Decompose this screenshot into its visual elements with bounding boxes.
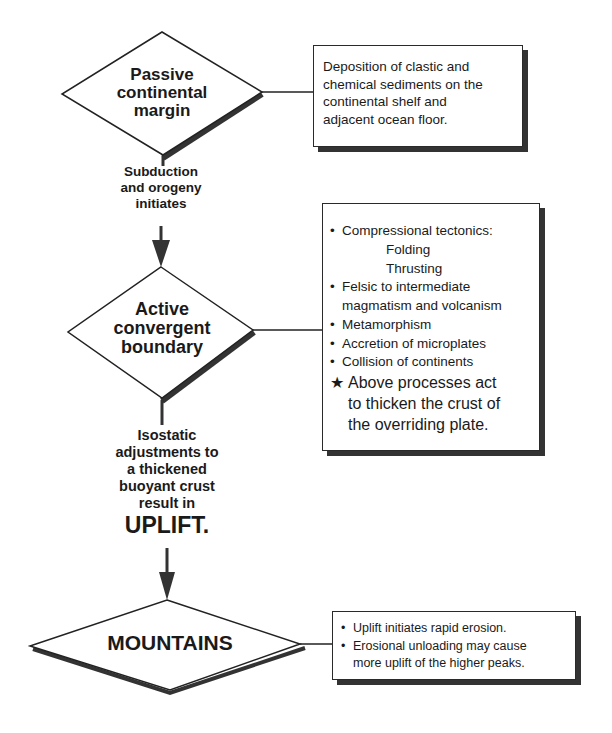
sub-item: Folding: [330, 241, 535, 260]
note-bullet-item: • Felsic to intermediate: [330, 278, 535, 297]
edge-label-line: and orogeny: [96, 180, 226, 196]
subduction-edge-label: Subduction and orogeny initiates: [96, 164, 226, 212]
edge-label-line: buoyant crust: [92, 478, 242, 495]
bullet-text: Metamorphism: [342, 317, 431, 332]
node-line: convergent: [92, 319, 232, 338]
bullet-continuation: more uplift of the higher peaks.: [341, 655, 571, 673]
note-line: Deposition of clastic and: [323, 58, 516, 76]
star-line: to thicken the crust of: [330, 394, 535, 415]
bullet-text: Uplift initiates rapid erosion.: [353, 621, 507, 635]
note-bullet-item: • Uplift initiates rapid erosion.: [341, 620, 571, 638]
note-bullet-item: • Metamorphism: [330, 316, 535, 335]
active-boundary-note: • Compressional tectonics: Folding Thrus…: [322, 203, 540, 451]
bullet-continuation: magmatism and volcanism: [330, 297, 535, 316]
passive-margin-note: Deposition of clastic and chemical sedim…: [313, 45, 523, 147]
bullet-icon: •: [330, 335, 335, 354]
star-icon: ★: [330, 373, 344, 394]
star-line: Above processes act: [348, 374, 497, 391]
mountains-note: • Uplift initiates rapid erosion. • Eros…: [332, 611, 576, 680]
bullet-icon: •: [341, 638, 345, 656]
note-line: continental shelf and: [323, 93, 516, 111]
bullet-text: Compressional tectonics:: [342, 223, 493, 238]
bullet-text: Accretion of microplates: [342, 336, 486, 351]
note-bullet-item: • Accretion of microplates: [330, 335, 535, 354]
passive-margin-label: Passive continental margin: [92, 66, 232, 120]
bullet-icon: •: [330, 222, 335, 241]
bullet-icon: •: [330, 316, 335, 335]
uplift-edge-label: Isostatic adjustments to a thickened buo…: [92, 427, 242, 538]
edge-label-line: Subduction: [96, 164, 226, 180]
bullet-text: Collision of continents: [342, 354, 473, 369]
note-line: adjacent ocean floor.: [323, 111, 516, 129]
sub-item: Thrusting: [330, 260, 535, 279]
node-line: continental: [92, 84, 232, 102]
node-line: Passive: [92, 66, 232, 84]
note-bullet-item: • Collision of continents: [330, 353, 535, 372]
edge-label-line: adjustments to: [92, 444, 242, 461]
mountains-label: MOUNTAINS: [80, 632, 260, 654]
bullet-icon: •: [341, 620, 345, 638]
bullet-icon: •: [330, 278, 335, 297]
arrow-head-1: [152, 240, 170, 267]
star-note: ★ Above processes act to thicken the cru…: [330, 373, 535, 435]
node-line: boundary: [92, 338, 232, 357]
star-line: the overriding plate.: [330, 415, 535, 436]
node-line: margin: [92, 102, 232, 120]
note-bullet-item: • Compressional tectonics:: [330, 222, 535, 241]
edge-label-line: initiates: [96, 196, 226, 212]
uplift-emphasis: UPLIFT.: [92, 513, 242, 538]
bullet-text: Erosional unloading may cause: [353, 639, 527, 653]
edge-label-line: result in: [92, 495, 242, 512]
node-line: Active: [92, 300, 232, 319]
node-line: MOUNTAINS: [80, 632, 260, 654]
note-line: chemical sediments on the: [323, 76, 516, 94]
bullet-text: Felsic to intermediate: [342, 279, 470, 294]
active-boundary-label: Active convergent boundary: [92, 300, 232, 357]
edge-label-line: Isostatic: [92, 427, 242, 444]
bullet-icon: •: [330, 353, 335, 372]
arrow-head-2: [159, 572, 175, 600]
edge-label-line: a thickened: [92, 461, 242, 478]
note-bullet-item: • Erosional unloading may cause: [341, 638, 571, 656]
